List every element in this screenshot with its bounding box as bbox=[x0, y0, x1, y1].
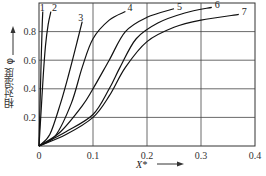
x-tick-label: 0.3 bbox=[195, 150, 208, 161]
curve-label: 5 bbox=[177, 1, 182, 12]
curve-7 bbox=[39, 14, 239, 146]
curves: 1234567 bbox=[39, 0, 247, 146]
y-tick-label: 0.6 bbox=[24, 55, 37, 66]
curve-5 bbox=[39, 9, 174, 146]
y-tick-label: 0.4 bbox=[24, 83, 37, 94]
curve-6 bbox=[39, 7, 212, 146]
grid-lines bbox=[39, 3, 255, 146]
curve-label: 1 bbox=[40, 2, 45, 13]
curve-label: 4 bbox=[127, 2, 132, 13]
y-tick-label: 0.8 bbox=[24, 26, 37, 37]
x-axis-arrow-icon bbox=[157, 162, 184, 167]
curve-label: 3 bbox=[78, 12, 83, 23]
y-axis-arrow-icon bbox=[11, 26, 16, 55]
x-axis-label: X* bbox=[135, 159, 147, 170]
y-tick-label: 0.2 bbox=[24, 112, 37, 123]
curve-label: 6 bbox=[215, 0, 220, 10]
curve-label: 2 bbox=[52, 2, 57, 13]
x-tick-label: 0.1 bbox=[87, 150, 100, 161]
chart-area: 00.10.20.30.40.20.40.60.8 1234567 X* bbox=[0, 0, 266, 176]
x-tick-label: 0.4 bbox=[249, 150, 262, 161]
curve-label: 7 bbox=[242, 6, 247, 17]
x-tick-label: 0 bbox=[37, 150, 42, 161]
